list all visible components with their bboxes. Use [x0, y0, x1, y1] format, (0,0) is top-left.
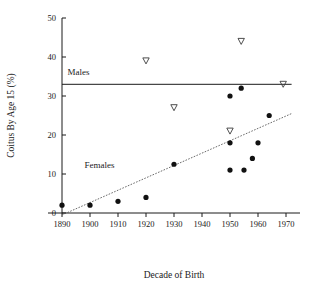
y-axis-tick-label: 30: [48, 91, 57, 101]
plot-axes: 0102030405018901900191019201930194019501…: [48, 13, 301, 229]
x-axis-tick-label: 1900: [82, 219, 99, 229]
x-axis-title: Decade of Birth: [144, 270, 205, 280]
males-data-point: [143, 58, 149, 64]
y-axis-tick-label: 40: [48, 52, 57, 62]
data-points: [59, 38, 286, 207]
females-data-point: [87, 203, 92, 208]
trend-lines: [62, 84, 292, 215]
x-axis-tick-label: 1960: [250, 219, 267, 229]
series-annotations: MalesFemales: [68, 67, 115, 171]
x-axis-tick-label: 1910: [110, 219, 127, 229]
x-axis-tick-label: 1970: [278, 219, 295, 229]
females-data-point: [241, 168, 246, 173]
series-label-females: Females: [84, 160, 114, 170]
females-data-point: [250, 156, 255, 161]
x-axis-tick-label: 1890: [54, 219, 71, 229]
females-data-point: [267, 113, 272, 118]
y-axis-tick-label: 0: [52, 208, 56, 218]
scatter-plot: 0102030405018901900191019201930194019501…: [0, 0, 327, 285]
males-data-point: [238, 38, 244, 44]
females-data-point: [115, 199, 120, 204]
females-data-point: [227, 168, 232, 173]
females-data-point: [227, 140, 232, 145]
females-data-point: [239, 86, 244, 91]
females-data-point: [143, 195, 148, 200]
x-axis-tick-label: 1920: [138, 219, 155, 229]
y-axis-tick-label: 50: [48, 13, 57, 23]
x-axis-tick-label: 1930: [166, 219, 183, 229]
x-axis-tick-label: 1950: [222, 219, 239, 229]
females-data-point: [171, 162, 176, 167]
males-data-point: [227, 128, 233, 134]
y-axis-title: Coitus By Age 15 (%): [6, 73, 17, 157]
females-data-point: [255, 140, 260, 145]
females-data-point: [227, 93, 232, 98]
y-axis-tick-label: 10: [48, 169, 57, 179]
x-axis-tick-label: 1940: [194, 219, 211, 229]
females-data-point: [59, 203, 64, 208]
males-data-point: [171, 105, 177, 111]
y-axis-tick-label: 20: [48, 130, 57, 140]
chart-figure: 0102030405018901900191019201930194019501…: [0, 0, 327, 285]
series-label-males: Males: [68, 67, 90, 77]
